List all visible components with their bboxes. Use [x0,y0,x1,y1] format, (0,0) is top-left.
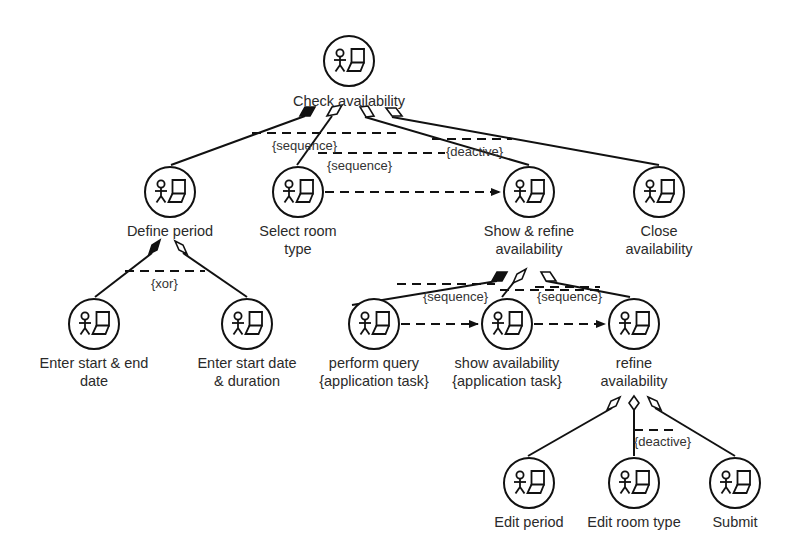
node-label-show-refine-availability: Show & refineavailability [484,222,574,258]
task-node-close [632,165,686,219]
constraint-sequence: {sequence} [423,289,488,304]
label-line: type [284,241,311,257]
task-node-select [271,165,325,219]
constraint-xor: {xor} [151,276,178,291]
label-line: availability [601,373,668,389]
task-node-define [143,165,197,219]
node-label-select-room-type: Select roomtype [259,222,336,258]
label-line: Enter start & end [40,355,149,371]
label-line: Edit room type [587,514,681,530]
node-label-show-availability: show availability{application task} [452,354,562,390]
node-label-enter-start-date-duration: Enter start date& duration [197,354,296,390]
task-node-refine [607,297,661,351]
task-node-editperiod [502,456,556,510]
task-node-check [322,34,376,88]
label-line: {application task} [452,373,562,389]
constraint-sequence: {sequence} [537,289,602,304]
diamond-open-icon [175,241,187,254]
node-label-submit: Submit [712,513,757,531]
label-line: Define period [127,223,213,239]
label-line: Show & refine [484,223,574,239]
label-line: & duration [214,373,280,389]
diamond-filled-icon [492,272,507,281]
task-tree-diagram: Check availability Define period Select … [0,0,790,556]
task-node-showrefine [502,165,556,219]
node-label-refine-availability: refineavailability [601,354,668,390]
label-line: show availability [455,355,560,371]
aggregation-diamonds-showrefine [492,269,556,283]
node-label-check-availability: Check availability [293,92,405,110]
node-label-enter-start-end-date: Enter start & enddate [40,354,149,390]
node-label-edit-room-type: Edit room type [587,513,681,531]
label-line: Submit [712,514,757,530]
label-line: Check availability [293,93,405,109]
task-node-query [347,297,401,351]
task-node-enterend [67,297,121,351]
label-line: Edit period [494,514,563,530]
constraint-deactive: {deactive} [634,434,691,449]
constraint-sequence: {sequence} [272,138,337,153]
diamond-open-icon [541,272,556,281]
label-line: date [80,373,108,389]
task-node-submit [708,456,762,510]
node-label-close-availability: Closeavailability [626,222,693,258]
connectors-layer [0,0,790,556]
constraint-deactive: {deactive} [446,144,503,159]
task-node-showavail [480,297,534,351]
label-line: availability [496,241,563,257]
label-line: perform query [329,355,419,371]
label-line: {application task} [319,373,429,389]
diamond-open-icon [629,396,639,410]
label-line: Close [640,223,677,239]
diamond-open-icon [607,397,620,410]
task-node-editroom [607,456,661,510]
node-label-define-period: Define period [127,222,213,240]
node-label-edit-period: Edit period [494,513,563,531]
label-line: Enter start date [197,355,296,371]
label-line: availability [626,241,693,257]
aggregation-diamonds-define [149,240,187,254]
node-label-perform-query: perform query{application task} [319,354,429,390]
constraint-sequence: {sequence} [327,158,392,173]
decomposition-edges-refine [528,408,735,456]
diamond-filled-icon [149,240,160,254]
diamond-open-icon [648,397,661,410]
edge-check-close [392,117,659,165]
aggregation-diamonds-refine [607,396,661,410]
label-line: refine [616,355,652,371]
label-line: Select room [259,223,336,239]
decomposition-edges-level1 [171,116,659,165]
task-node-enterdur [220,297,274,351]
diamond-open-icon [513,269,526,283]
